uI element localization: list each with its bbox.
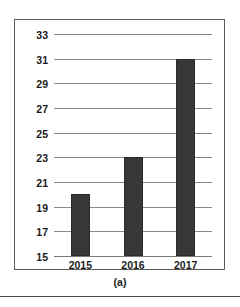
y-axis-tick-label: 17 (36, 227, 48, 238)
y-axis-tick-label: 19 (36, 202, 48, 213)
bar-2015 (71, 194, 90, 256)
gridline-15: 15 (54, 256, 212, 257)
figure-panel: 33312927252321191715 201520162017 (a) (0, 0, 240, 307)
chart-plot-frame: 33312927252321191715 201520162017 (14, 19, 225, 270)
chart-plot-area: 33312927252321191715 201520162017 (54, 34, 212, 256)
y-axis-tick-label: 33 (36, 30, 48, 41)
y-axis-tick-label: 31 (36, 54, 48, 65)
footer-divider (0, 296, 240, 297)
bar-2017 (176, 59, 195, 256)
y-axis-tick-label: 21 (36, 178, 48, 189)
x-axis-tick-label: 2015 (69, 260, 92, 271)
x-axis-tick-label: 2016 (121, 260, 144, 271)
x-axis-tick-label: 2017 (174, 260, 197, 271)
y-axis-tick-label: 23 (36, 153, 48, 164)
figure-caption: (a) (0, 276, 240, 288)
y-axis-tick-label: 27 (36, 104, 48, 115)
bar-2016 (124, 157, 143, 256)
y-axis-tick-label: 15 (36, 252, 48, 263)
y-axis-tick-label: 25 (36, 128, 48, 139)
gridline-33: 33 (54, 34, 212, 35)
y-axis-tick-label: 29 (36, 79, 48, 90)
